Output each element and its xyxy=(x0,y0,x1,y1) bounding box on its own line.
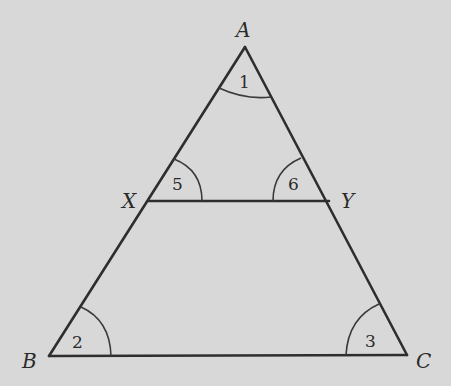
vertex-label-X: X xyxy=(120,189,137,213)
vertex-label-C: C xyxy=(416,349,431,373)
angle-label-5: 5 xyxy=(172,174,183,194)
vertex-label-Y: Y xyxy=(341,189,356,213)
segment-BC xyxy=(49,355,407,356)
angle-arc-2 xyxy=(81,307,111,356)
triangle-diagram: A B C X Y 1 2 3 5 6 xyxy=(0,0,451,386)
diagram-svg: A B C X Y 1 2 3 5 6 xyxy=(0,0,451,386)
angle-label-2: 2 xyxy=(72,332,83,352)
vertex-label-A: A xyxy=(234,18,250,42)
angle-label-3: 3 xyxy=(365,331,376,351)
vertex-label-B: B xyxy=(21,349,37,373)
angle-label-6: 6 xyxy=(288,174,299,194)
angle-label-1: 1 xyxy=(239,72,250,92)
